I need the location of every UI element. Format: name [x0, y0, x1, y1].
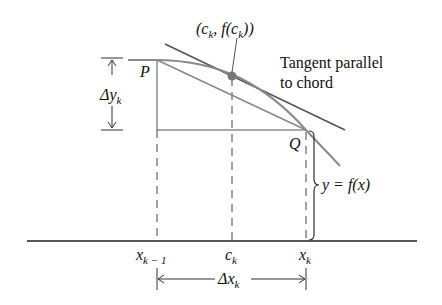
- point-label: (ck, f(ck)): [196, 20, 254, 40]
- label-q: Q: [289, 135, 301, 152]
- c-k-label: ck: [225, 246, 238, 266]
- tangent-label-line1: Tangent parallel: [280, 54, 384, 72]
- point-c-k: [228, 72, 237, 81]
- x-prev-label: xk − 1: [135, 246, 166, 266]
- x-k-label: xk: [298, 246, 312, 266]
- delta-y-label: Δyk: [99, 86, 123, 106]
- point-label-leader: [232, 38, 237, 72]
- brace-icon: [309, 131, 319, 240]
- label-p: P: [139, 63, 150, 80]
- mean-value-diagram: (ck, f(ck)) Tangent parallel to chord P …: [0, 0, 442, 305]
- function-label: y = f(x): [320, 176, 370, 194]
- tangent-label-line2: to chord: [280, 74, 333, 91]
- delta-x-label: Δxk: [217, 270, 241, 290]
